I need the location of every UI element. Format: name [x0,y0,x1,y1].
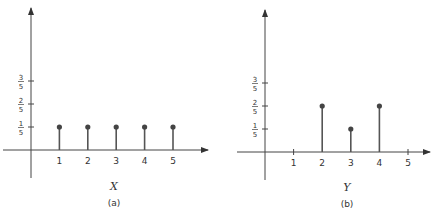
y-ticks: 152535 [18,74,34,137]
y-tick-numerator: 3 [19,74,23,82]
x-tick-label: 1 [291,158,297,168]
x-tick-label: 5 [405,158,411,168]
y-tick-denominator: 5 [19,106,23,114]
y-tick-numerator: 2 [19,97,23,105]
y-tick-denominator: 5 [19,83,23,91]
stem-point [320,103,325,108]
x-tick-label: 3 [348,158,354,168]
y-tick-denominator: 5 [253,108,257,116]
y-tick-numerator: 1 [19,120,23,128]
x-tick-label: 4 [377,158,383,168]
x-tick-label: 1 [57,156,63,166]
y-variable-label: Y [343,181,352,194]
stem-point [377,103,382,108]
panel-a: 152535 12345 X (a) [3,8,208,208]
stems [320,103,382,152]
x-ticks: 12345 [57,156,176,166]
y-tick-numerator: 1 [253,122,257,130]
y-ticks: 152535 [252,76,268,139]
x-tick-label: 3 [113,156,119,166]
x-tick-label: 4 [142,156,148,166]
stem-point [57,124,62,129]
y-tick-denominator: 5 [19,129,23,137]
y-tick-numerator: 2 [253,99,257,107]
y-tick-denominator: 5 [253,85,257,93]
figure: 152535 12345 X (a) 152535 12345 Y (b) [0,0,435,212]
stem-point [170,124,175,129]
stem-point [114,124,119,129]
panel-caption: (b) [341,199,354,209]
stem-point [348,126,353,131]
stem-point [85,124,90,129]
x-tick-label: 2 [319,158,325,168]
y-tick-numerator: 3 [253,76,257,84]
y-tick-denominator: 5 [253,131,257,139]
x-tick-label: 5 [170,156,176,166]
panel-b: 152535 12345 Y (b) [237,10,430,209]
x-tick-label: 2 [85,156,91,166]
x-variable-label: X [109,180,119,193]
stems [57,124,176,150]
panel-caption: (a) [108,198,121,208]
stem-point [142,124,147,129]
